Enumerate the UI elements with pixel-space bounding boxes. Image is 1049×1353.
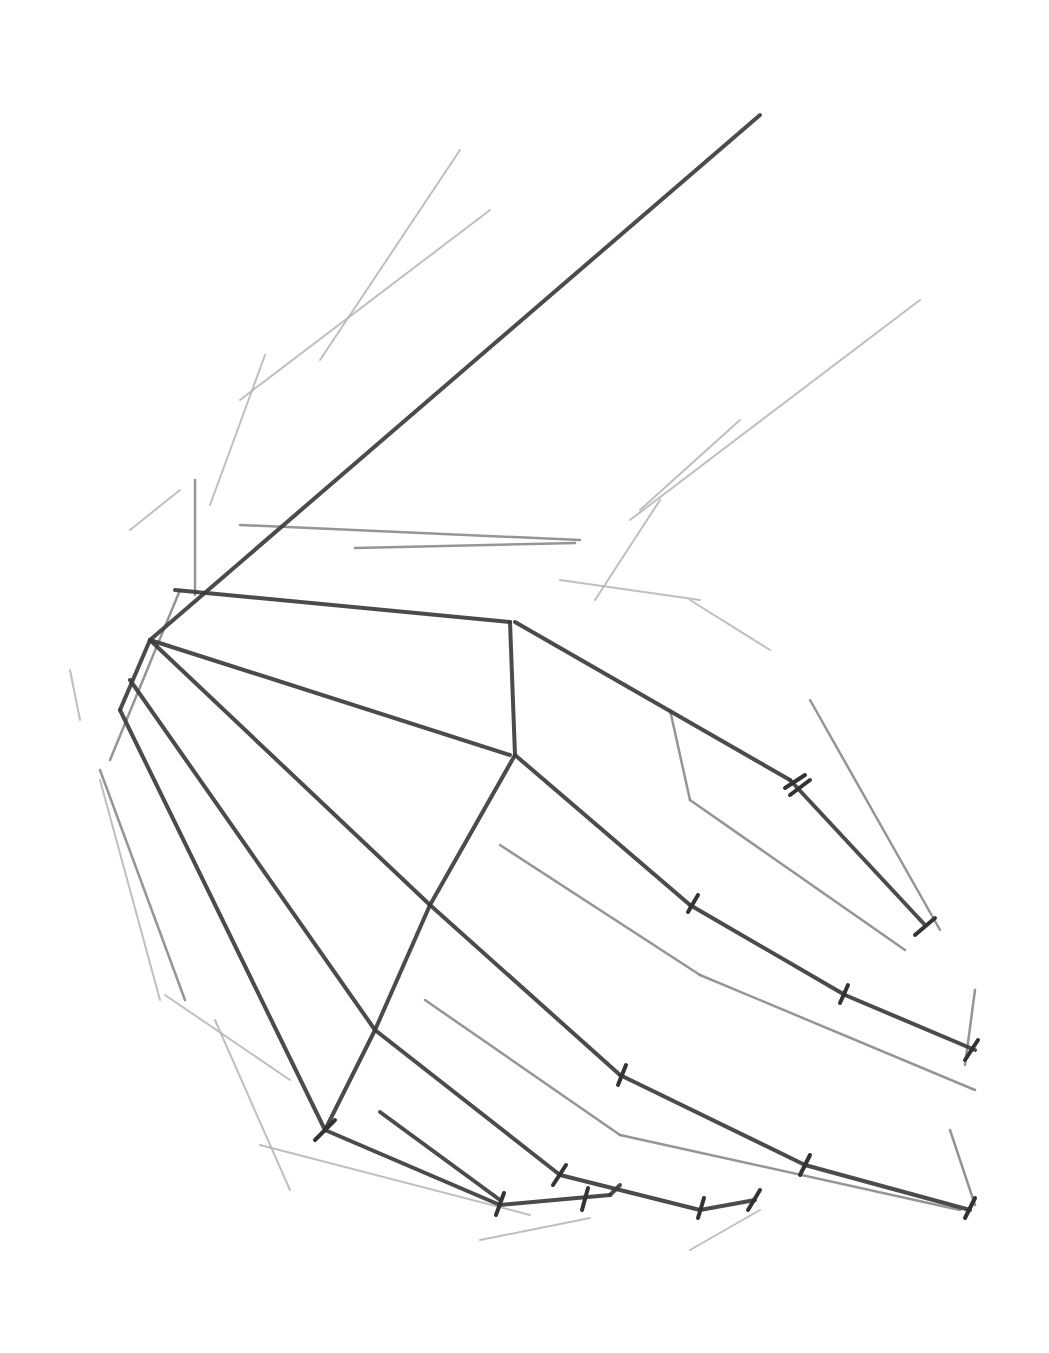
paper-background bbox=[0, 0, 1049, 1353]
sketch-canvas bbox=[0, 0, 1049, 1353]
hand-sketch-drawing bbox=[0, 0, 1049, 1353]
